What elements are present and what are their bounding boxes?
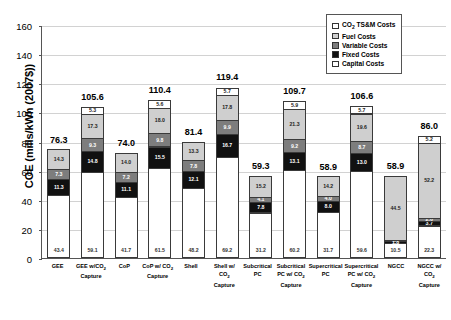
bar-segment-capital[interactable]: 59.1 bbox=[81, 172, 104, 258]
x-axis-label-2: CoP bbox=[108, 262, 141, 320]
bar-segment-fixed[interactable]: 16.7 bbox=[216, 134, 239, 158]
bar-segment-variable[interactable]: 9.8 bbox=[148, 133, 171, 147]
y-tick-label: 20 bbox=[2, 224, 32, 235]
bar-segment-capital[interactable]: 60.2 bbox=[283, 170, 306, 258]
bar-stack[interactable]: 43.411.37.314.3 bbox=[47, 150, 70, 258]
bar-segment-variable[interactable]: 4.0 bbox=[317, 196, 340, 202]
bar-segment-capital[interactable]: 31.2 bbox=[249, 213, 272, 258]
bar-segment-fuel[interactable]: 18.0 bbox=[148, 108, 171, 134]
segment-value-label: 52.2 bbox=[424, 178, 434, 183]
bar-segment-fixed[interactable]: 13.1 bbox=[283, 152, 306, 171]
bar-segment-co2ts[interactable]: 5.2 bbox=[418, 136, 441, 144]
bar-segment-variable[interactable]: 9.3 bbox=[81, 138, 104, 152]
bar-segment-capital[interactable]: 61.5 bbox=[148, 168, 171, 258]
bar-segment-capital[interactable]: 48.2 bbox=[182, 188, 205, 258]
bar-segment-fuel[interactable]: 17.8 bbox=[216, 95, 239, 121]
segment-value-label: 9.2 bbox=[291, 144, 298, 149]
bar-segment-fixed[interactable]: 11.1 bbox=[115, 182, 138, 198]
bar-total-label: 110.4 bbox=[149, 85, 171, 95]
bar-column[interactable]: 69.216.79.917.85.7119.4 bbox=[210, 26, 244, 258]
bar-segment-co2ts[interactable]: 5.6 bbox=[148, 100, 171, 108]
bar-segment-capital[interactable]: 69.2 bbox=[216, 157, 239, 258]
bar-segment-variable[interactable]: 7.8 bbox=[182, 160, 205, 171]
bar-segment-fuel[interactable]: 17.3 bbox=[81, 114, 104, 139]
segment-value-label: 7.2 bbox=[123, 175, 130, 180]
bar-segment-variable[interactable]: 4.1 bbox=[249, 197, 272, 203]
bar-segment-fuel[interactable]: 19.6 bbox=[350, 114, 373, 143]
bar-column[interactable]: 31.27.84.115.259.3 bbox=[244, 26, 278, 258]
segment-value-label: 14.2 bbox=[323, 184, 333, 189]
bar-column[interactable]: 22.33.72.652.25.286.0 bbox=[412, 26, 446, 258]
bar-segment-capital[interactable]: 41.7 bbox=[115, 197, 138, 258]
bar-stack[interactable]: 22.33.72.652.25.2 bbox=[418, 137, 441, 258]
bar-column[interactable]: 41.711.17.214.074.0 bbox=[109, 26, 143, 258]
bar-stack[interactable]: 61.515.59.818.05.6 bbox=[148, 101, 171, 258]
bar-segment-variable[interactable]: 8.7 bbox=[350, 141, 373, 154]
bar-segment-capital[interactable]: 59.6 bbox=[350, 171, 373, 258]
bar-stack[interactable]: 31.78.04.014.2 bbox=[317, 177, 340, 258]
segment-value-label: 19.6 bbox=[357, 125, 367, 130]
bar-stack[interactable]: 59.613.08.719.65.7 bbox=[350, 107, 373, 258]
chart-legend: CO2 TS&M CostsFuel CostsVariable CostsFi… bbox=[326, 14, 402, 74]
bar-segment-variable[interactable]: 7.2 bbox=[115, 172, 138, 182]
bar-segment-fixed[interactable]: 14.8 bbox=[81, 151, 104, 173]
bar-column[interactable]: 48.212.17.813.381.4 bbox=[177, 26, 211, 258]
x-axis-label-11: NGCC w/CO2Capture bbox=[413, 262, 446, 320]
bar-segment-variable[interactable]: 9.9 bbox=[216, 120, 239, 134]
bar-stack[interactable]: 59.114.89.317.35.3 bbox=[81, 108, 104, 258]
bar-stack[interactable]: 10.51.81.344.5 bbox=[384, 177, 407, 259]
bar-segment-fuel[interactable]: 44.5 bbox=[384, 176, 407, 241]
bar-stack[interactable]: 48.212.17.813.3 bbox=[182, 143, 205, 258]
bar-total-label: 109.7 bbox=[283, 86, 306, 96]
legend-item-fuel[interactable]: Fuel Costs bbox=[332, 33, 395, 40]
bar-stack[interactable]: 41.711.17.214.0 bbox=[115, 153, 138, 258]
legend-item-variable[interactable]: Variable Costs bbox=[332, 42, 395, 49]
legend-item-capital[interactable]: Capital Costs bbox=[332, 60, 395, 67]
bar-segment-variable[interactable]: 9.2 bbox=[283, 139, 306, 152]
segment-value-label: 14.8 bbox=[87, 159, 97, 164]
bar-segment-capital[interactable]: 22.3 bbox=[418, 226, 441, 258]
segment-value-label: 59.1 bbox=[87, 248, 97, 253]
bar-segment-fixed[interactable]: 8.0 bbox=[317, 201, 340, 213]
bar-segment-fixed[interactable]: 7.8 bbox=[249, 202, 272, 213]
legend-item-fixed[interactable]: Fixed Costs bbox=[332, 51, 395, 58]
bar-segment-fuel[interactable]: 52.2 bbox=[418, 143, 441, 219]
bar-total-label: 119.4 bbox=[216, 72, 238, 82]
bar-segment-fuel[interactable]: 21.3 bbox=[283, 109, 306, 140]
segment-value-label: 5.7 bbox=[358, 108, 365, 113]
segment-value-label: 9.9 bbox=[224, 125, 231, 130]
bar-column[interactable]: 61.515.59.818.05.6110.4 bbox=[143, 26, 177, 258]
bar-column[interactable]: 43.411.37.314.376.3 bbox=[42, 26, 76, 258]
bar-segment-fuel[interactable]: 13.3 bbox=[182, 142, 205, 161]
bar-column[interactable]: 60.213.19.221.35.9109.7 bbox=[278, 26, 312, 258]
bar-segment-capital[interactable]: 10.5 bbox=[384, 243, 407, 258]
bar-stack[interactable]: 60.213.19.221.35.9 bbox=[283, 102, 306, 258]
legend-item-co2ts[interactable]: CO2 TS&M Costs bbox=[332, 21, 395, 30]
segment-value-label: 60.2 bbox=[289, 248, 299, 253]
segment-value-label: 5.7 bbox=[224, 89, 231, 94]
segment-value-label: 7.8 bbox=[257, 205, 264, 210]
bar-column[interactable]: 59.114.89.317.35.3105.6 bbox=[76, 26, 110, 258]
bar-segment-co2ts[interactable]: 5.7 bbox=[216, 88, 239, 96]
bar-segment-fuel[interactable]: 14.0 bbox=[115, 153, 138, 173]
bar-segment-fixed[interactable]: 15.5 bbox=[148, 147, 171, 170]
bar-segment-fuel[interactable]: 14.2 bbox=[317, 176, 340, 197]
bar-stack[interactable]: 31.27.84.115.2 bbox=[249, 176, 272, 258]
bar-segment-co2ts[interactable]: 5.3 bbox=[81, 107, 104, 115]
bar-segment-fixed[interactable]: 12.1 bbox=[182, 171, 205, 189]
segment-value-label: 8.7 bbox=[358, 145, 365, 150]
segment-value-label: 41.7 bbox=[121, 248, 131, 253]
bar-segment-fixed[interactable]: 13.0 bbox=[350, 153, 373, 172]
bar-segment-fuel[interactable]: 14.3 bbox=[47, 149, 70, 170]
bar-segment-capital[interactable]: 31.7 bbox=[317, 212, 340, 258]
segment-value-label: 5.6 bbox=[156, 102, 163, 107]
bar-segment-co2ts[interactable]: 5.7 bbox=[350, 106, 373, 114]
bar-segment-co2ts[interactable]: 5.9 bbox=[283, 101, 306, 110]
bar-segment-fixed[interactable]: 11.3 bbox=[47, 179, 70, 195]
bar-segment-capital[interactable]: 43.4 bbox=[47, 195, 70, 258]
bar-segment-fuel[interactable]: 15.2 bbox=[249, 176, 272, 198]
y-tick-mark bbox=[39, 259, 43, 260]
bar-segment-variable[interactable]: 7.3 bbox=[47, 169, 70, 180]
bar-stack[interactable]: 69.216.79.917.85.7 bbox=[216, 88, 239, 258]
segment-value-label: 9.3 bbox=[89, 143, 96, 148]
